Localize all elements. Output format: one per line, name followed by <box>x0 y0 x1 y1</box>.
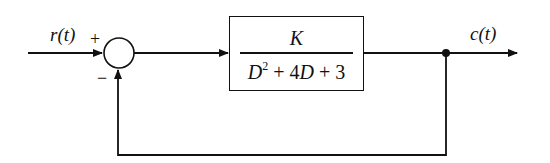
den-d: D <box>248 61 262 83</box>
minus-sign: − <box>97 69 107 87</box>
output-label: c(t) <box>470 24 496 43</box>
input-label: r(t) <box>50 25 75 44</box>
den-rest-a: + 4 <box>268 61 299 83</box>
den-d2: D <box>300 61 314 83</box>
transfer-denominator: D2 + 4D + 3 <box>230 59 363 84</box>
plus-sign: + <box>90 30 100 48</box>
plant-block: K D2 + 4D + 3 <box>229 16 364 91</box>
fraction-bar <box>240 52 353 54</box>
transfer-numerator: K <box>230 27 363 50</box>
den-rest-b: + 3 <box>314 61 345 83</box>
summing-junction <box>104 38 134 68</box>
